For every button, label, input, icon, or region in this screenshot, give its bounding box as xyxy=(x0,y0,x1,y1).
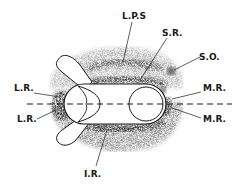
label-sr: S.R. xyxy=(162,28,182,38)
label-so: S.O. xyxy=(199,52,220,62)
label-mr-upper: M.R. xyxy=(203,83,226,93)
label-lr-lower: L.R. xyxy=(17,114,37,124)
label-lps: L.P.S xyxy=(122,11,146,21)
label-mr-lower: M.R. xyxy=(203,114,226,124)
label-lr-upper: L.R. xyxy=(14,83,34,93)
label-ir: I.R. xyxy=(84,169,101,179)
orbit-muscle-diagram: L.P.S S.R. S.O. L.R. L.R. M.R. M.R. I.R. xyxy=(0,0,243,187)
superior-oblique-spot xyxy=(167,67,175,75)
